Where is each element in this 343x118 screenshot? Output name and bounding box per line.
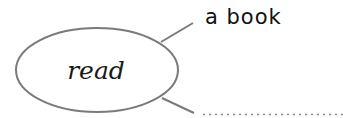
center-word: read [67, 56, 125, 85]
branch-line-lower [162, 98, 194, 113]
word-web-diagram: read a book [0, 0, 343, 118]
branch-line-upper [161, 23, 193, 42]
branch-label-upper: a book [205, 5, 282, 29]
